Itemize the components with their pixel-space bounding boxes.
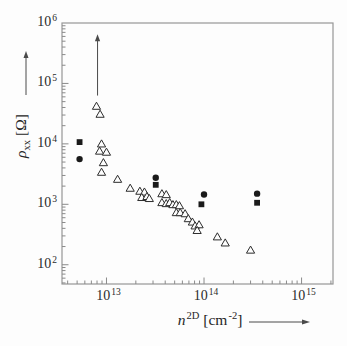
x-tick-label: 1013 bbox=[85, 288, 131, 303]
circle-point bbox=[254, 190, 260, 196]
y-axis-arrow-head-icon bbox=[24, 51, 29, 58]
y-tick-label: 102 bbox=[0, 256, 57, 271]
triangle-point bbox=[246, 246, 254, 253]
circle-point bbox=[201, 191, 207, 197]
exponent: 14 bbox=[209, 287, 219, 297]
x-tick-label: 1015 bbox=[281, 288, 327, 303]
triangle-point bbox=[97, 140, 105, 147]
exponent: 13 bbox=[111, 287, 121, 297]
circle-point bbox=[153, 175, 159, 181]
x-axis-arrow-head-icon bbox=[302, 319, 310, 324]
divergence-arrow-head-icon bbox=[95, 34, 100, 41]
square-point bbox=[153, 182, 159, 188]
n-symbol: n bbox=[178, 311, 186, 328]
triangle-point bbox=[97, 168, 105, 175]
rho-subscript: xx bbox=[21, 140, 32, 151]
annotations bbox=[95, 34, 100, 95]
exponent: 2 bbox=[52, 255, 57, 265]
y-tick-label: 106 bbox=[0, 14, 57, 29]
square-point bbox=[254, 200, 260, 206]
exponent: 15 bbox=[306, 287, 316, 297]
data-points bbox=[76, 102, 260, 253]
exponent: 6 bbox=[52, 13, 57, 23]
circle-point bbox=[76, 156, 82, 162]
cm-unit-open: [cm bbox=[203, 311, 227, 328]
y-tick-label: 103 bbox=[0, 195, 57, 210]
triangle-point bbox=[221, 239, 229, 246]
triangle-point bbox=[113, 175, 121, 182]
exponent: 5 bbox=[52, 73, 57, 83]
square-point bbox=[77, 139, 83, 145]
n-superscript: 2D bbox=[186, 310, 199, 321]
x-tick-label: 1014 bbox=[183, 288, 229, 303]
triangle-point bbox=[92, 102, 100, 109]
y-axis-title: ρxx[Ω] bbox=[12, 114, 30, 158]
triangle-point bbox=[126, 184, 134, 191]
triangle-point bbox=[96, 110, 104, 117]
x-axis-title: n2D[cm-2] bbox=[178, 311, 243, 329]
resistivity-vs-density-plot: 106105104103102101310141015 ρxx[Ω] n2D[c… bbox=[0, 0, 347, 346]
cm-unit-close: ] bbox=[237, 311, 242, 328]
ohm-unit: [Ω] bbox=[12, 114, 29, 136]
square-point bbox=[199, 201, 205, 207]
exponent: 3 bbox=[52, 194, 57, 204]
exponent: 4 bbox=[52, 134, 57, 144]
triangle-point bbox=[213, 233, 221, 240]
triangle-point bbox=[95, 147, 103, 154]
cm-unit-exponent: -2 bbox=[228, 310, 237, 321]
triangle-point bbox=[99, 159, 107, 166]
triangle-point bbox=[102, 148, 110, 155]
rho-symbol: ρ bbox=[12, 150, 29, 157]
y-tick-label: 105 bbox=[0, 74, 57, 89]
